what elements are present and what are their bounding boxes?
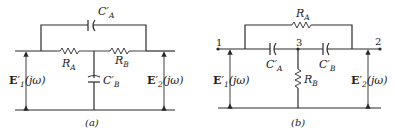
wire	[245, 25, 292, 49]
label-e2: E′2(jω)	[147, 74, 184, 89]
wire	[41, 25, 88, 51]
label-cb: C′B	[103, 74, 120, 89]
label-ca: C′A	[98, 5, 115, 20]
label-e1: E′1(jω)	[9, 74, 46, 89]
label-ra: RA	[61, 57, 76, 72]
panel-a: C′A RA RB C′B E′1(jω) E′2(jω) (a)	[9, 5, 184, 128]
node-1-label: 1	[216, 37, 222, 48]
circuit-diagram: C′A RA RB C′B E′1(jω) E′2(jω) (a)	[0, 0, 395, 133]
node-3-label: 3	[296, 37, 302, 48]
label-rb: RB	[303, 73, 318, 88]
node-2-label: 2	[375, 36, 381, 47]
resistor-ra-symbol	[57, 48, 94, 54]
panel-b: 1 3 2 RA C′A C′B RB E′1(jω) E′2(jω) (b)	[213, 7, 388, 128]
label-ca: C′A	[266, 58, 283, 73]
label-e1: E′1(jω)	[213, 74, 250, 89]
resistor-ra-symbol	[292, 22, 311, 28]
label-e2: E′2(jω)	[351, 74, 388, 89]
resistor-rb-symbol	[295, 69, 301, 88]
label-ra: RA	[295, 7, 310, 22]
caption-b: (b)	[291, 117, 305, 128]
caption-a: (a)	[85, 117, 99, 128]
label-rb: RB	[114, 54, 129, 69]
wire	[93, 25, 146, 51]
wire	[311, 25, 352, 49]
label-cb: C′B	[319, 58, 336, 73]
